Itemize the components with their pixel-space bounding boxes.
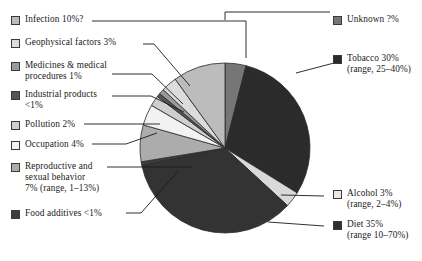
legend-label-reproductive-sexual-behavior: Reproductive and sexual behavior 7% (ran…: [25, 161, 99, 195]
legend-swatch-industrial-products: [11, 91, 20, 100]
legend-label-food-additives: Food additives <1%: [25, 208, 102, 219]
legend-item-food-additives[interactable]: Food additives <1%: [11, 208, 102, 219]
legend-swatch-reproductive-sexual-behavior: [11, 163, 20, 172]
legend-swatch-food-additives: [11, 210, 20, 219]
legend-item-occupation[interactable]: Occupation 4%: [11, 139, 84, 150]
legend-item-medicines-medical-procedures[interactable]: Medicines & medical procedures 1%: [11, 60, 107, 82]
legend-swatch-medicines-medical-procedures: [11, 62, 20, 71]
legend-label-diet: Diet 35% (range 10–70%): [347, 219, 409, 241]
legend-swatch-occupation: [11, 141, 20, 150]
legend-label-pollution: Pollution 2%: [25, 119, 75, 130]
legend-label-infection: Infection 10%?: [25, 14, 83, 25]
legend-swatch-diet: [333, 221, 342, 230]
legend-item-geophysical-factors[interactable]: Geophysical factors 3%: [11, 37, 116, 48]
legend-swatch-alcohol: [333, 190, 342, 199]
legend-item-industrial-products[interactable]: Industrial products <1%: [11, 89, 97, 111]
legend-item-alcohol[interactable]: Alcohol 3% (range, 2–4%): [333, 188, 401, 210]
legend-label-geophysical-factors: Geophysical factors 3%: [25, 37, 116, 48]
legend-item-unknown[interactable]: Unknown ?%: [333, 14, 399, 25]
legend-swatch-tobacco: [333, 55, 342, 64]
legend-item-infection[interactable]: Infection 10%?: [11, 14, 83, 25]
legend-swatch-unknown: [333, 16, 342, 25]
legend-item-tobacco[interactable]: Tobacco 30% (range, 25–40%): [333, 53, 411, 75]
legend-label-occupation: Occupation 4%: [25, 139, 84, 150]
legend-label-alcohol: Alcohol 3% (range, 2–4%): [347, 188, 401, 210]
legend-swatch-infection: [11, 16, 20, 25]
legend-label-industrial-products: Industrial products <1%: [25, 89, 97, 111]
legend-swatch-pollution: [11, 121, 20, 130]
legend-swatch-geophysical-factors: [11, 39, 20, 48]
legend-item-diet[interactable]: Diet 35% (range 10–70%): [333, 219, 409, 241]
legend-item-reproductive-sexual-behavior[interactable]: Reproductive and sexual behavior 7% (ran…: [11, 161, 99, 195]
pie-chart-figure: Unknown ?%Tobacco 30% (range, 25–40%)Alc…: [0, 0, 422, 261]
legend-label-medicines-medical-procedures: Medicines & medical procedures 1%: [25, 60, 107, 82]
legend-label-unknown: Unknown ?%: [347, 14, 399, 25]
legend-label-tobacco: Tobacco 30% (range, 25–40%): [347, 53, 411, 75]
legend-item-pollution[interactable]: Pollution 2%: [11, 119, 75, 130]
